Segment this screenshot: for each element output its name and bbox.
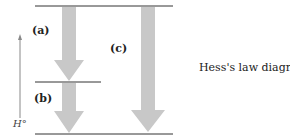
label-c: (c) xyxy=(110,42,127,55)
enthalpy-axis-label: H° xyxy=(13,118,27,129)
label-b: (b) xyxy=(34,92,52,105)
label-a: (a) xyxy=(32,24,50,37)
axis-arrowhead-icon xyxy=(18,34,22,40)
arrow-a-icon xyxy=(54,7,84,81)
diagram-caption: Hess's law diagram xyxy=(199,61,290,74)
arrow-c-icon xyxy=(131,7,165,132)
arrow-b-icon xyxy=(54,83,84,133)
hess-law-diagram: (a) (b) (c) H° Hess's law diagram xyxy=(0,0,290,140)
